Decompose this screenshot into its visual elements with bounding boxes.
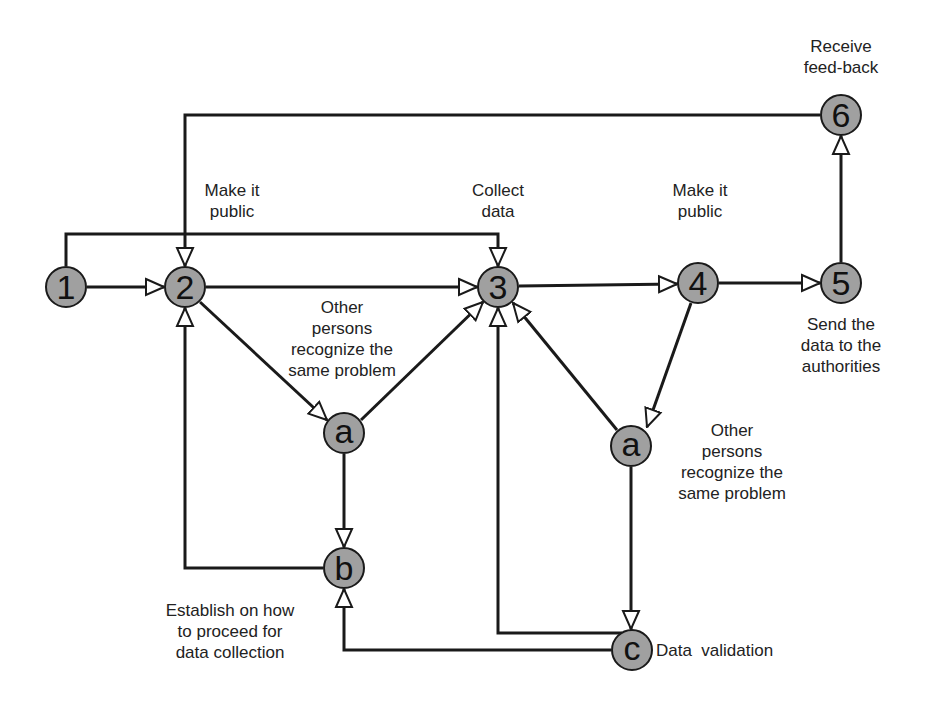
data-validation-label: Data validation: [656, 640, 806, 661]
node-4-label: 4: [689, 264, 708, 302]
edge-1-to-3: [66, 234, 498, 266]
node-a-left-label: a: [335, 412, 354, 450]
make-public-right-label: Make it public: [658, 180, 742, 222]
node-a-right-label: a: [622, 425, 641, 463]
other-persons-left-label: Other persons recognize the same problem: [270, 297, 414, 381]
edge-c-to-3: [498, 308, 622, 633]
edge-4-to-a-right: [647, 303, 691, 427]
make-public-left-label: Make it public: [190, 180, 274, 222]
establish-label: Establish on how to proceed for data col…: [150, 600, 310, 663]
node-b-label: b: [335, 549, 354, 587]
edge-c-to-b: [344, 589, 611, 650]
collect-data-label: Collect data: [458, 180, 538, 222]
node-6-label: 6: [832, 96, 851, 134]
receive-feedback-label: Receive feed-back: [790, 36, 892, 78]
node-3-label: 3: [489, 268, 508, 306]
send-data-label: Send the data to the authorities: [785, 314, 897, 377]
edge-a-right-to-3: [513, 303, 617, 430]
node-1-label: 1: [57, 268, 76, 306]
node-5-label: 5: [832, 264, 851, 302]
edge-3-to-4: [519, 284, 677, 286]
node-c-label: c: [624, 629, 641, 667]
node-2-label: 2: [176, 268, 195, 306]
other-persons-right-label: Other persons recognize the same problem: [660, 420, 804, 504]
